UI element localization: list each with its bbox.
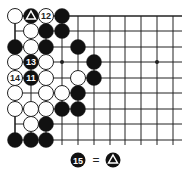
black-stone [87,71,102,86]
black-stone [8,40,23,55]
black-stone [39,117,54,132]
white-stone: 14 [8,71,23,86]
move-number-label: 14 [10,73,20,83]
black-stone [24,133,39,148]
black-stone [8,133,23,148]
white-stone [8,86,23,101]
black-stone [39,40,54,55]
caption-move-number: 15 [73,156,83,166]
white-stone [24,117,39,132]
white-stone [24,24,39,39]
move-number-label: 13 [26,57,36,67]
white-stone [39,71,54,86]
white-stone [39,55,54,70]
white-stone [55,86,70,101]
black-stone [71,102,86,117]
white-stone [39,102,54,117]
black-stone [39,24,54,39]
move-caption: 15 = [71,153,121,168]
white-stone [39,86,54,101]
black-stone: 13 [24,55,39,70]
black-stone [55,24,70,39]
black-stone [39,133,54,148]
white-stone [71,71,86,86]
white-stone [24,40,39,55]
white-stone [24,102,39,117]
white-stone: 12 [39,9,54,24]
black-stone [71,86,86,101]
black-stone [55,102,70,117]
go-board-diagram: 12131411 15 = [0,0,191,174]
black-stone [24,9,39,24]
black-stone [87,55,102,70]
star-point-icon [155,60,159,64]
white-stone [8,55,23,70]
caption-equals: = [92,153,99,167]
black-stone [55,9,70,24]
star-point-icon [60,60,64,64]
white-stone [8,9,23,24]
black-stone [71,40,86,55]
black-stone: 11 [24,71,39,86]
white-stone [8,102,23,117]
move-number-label: 12 [41,11,51,21]
move-number-label: 11 [26,73,36,83]
